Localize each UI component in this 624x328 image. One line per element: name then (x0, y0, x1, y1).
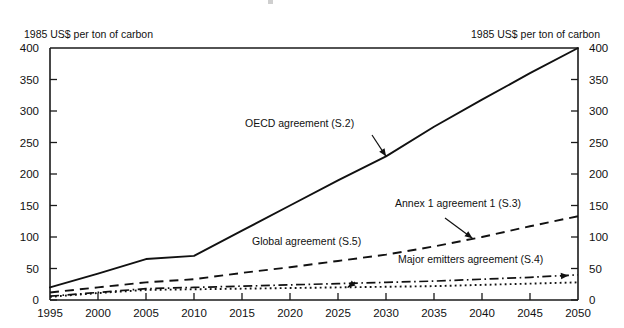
y-tick-label-left: 250 (20, 137, 39, 149)
y-tick-label-right: 0 (589, 294, 595, 306)
y-axis-ticks-right: 050100150200250300350400 (571, 42, 608, 306)
line-chart: 1985 US$ per ton of carbon 1985 US$ per … (0, 0, 624, 328)
scan-artifact (268, 0, 273, 4)
x-axis-ticks: 1995200020052010201520202025203020352040… (37, 293, 591, 319)
x-tick-label: 2015 (229, 307, 255, 319)
y-tick-label-left: 100 (20, 231, 39, 243)
x-tick-label: 2025 (325, 307, 351, 319)
y-tick-label-left: 0 (33, 294, 39, 306)
y-tick-label-left: 350 (20, 74, 39, 86)
x-tick-label: 2005 (133, 307, 159, 319)
x-tick-label: 2010 (181, 307, 207, 319)
x-tick-label: 2035 (421, 307, 447, 319)
x-tick-label: 2000 (85, 307, 111, 319)
y-tick-label-left: 300 (20, 105, 39, 117)
annotation-oecd-agreement-s-2-label: OECD agreement (S.2) (245, 117, 354, 129)
annotation-major-emitters-agreement-s-4-label: Major emitters agreement (S.4) (398, 253, 543, 265)
y-tick-label-left: 150 (20, 200, 39, 212)
annotation-annex-1-agreement-1-s-3-arrowhead (464, 231, 472, 238)
annotation-global-agreement-s-5-label: Global agreement (S.5) (252, 235, 361, 247)
x-tick-label: 2030 (373, 307, 399, 319)
y-tick-label-right: 400 (589, 42, 608, 54)
y-axis-label-left: 1985 US$ per ton of carbon (24, 28, 153, 40)
chart-container: 1985 US$ per ton of carbon 1985 US$ per … (0, 0, 624, 328)
x-tick-label: 1995 (37, 307, 63, 319)
y-axis-label-right: 1985 US$ per ton of carbon (471, 28, 600, 40)
y-tick-label-right: 200 (589, 168, 608, 180)
annotation-annex-1-agreement-1-s-3-label: Annex 1 agreement 1 (S.3) (395, 197, 521, 209)
y-axis-ticks-left: 050100150200250300350400 (20, 42, 57, 306)
y-tick-label-right: 150 (589, 200, 608, 212)
x-tick-label: 2045 (517, 307, 543, 319)
y-tick-label-right: 50 (589, 263, 602, 275)
y-tick-label-right: 100 (589, 231, 608, 243)
y-tick-label-left: 200 (20, 168, 39, 180)
x-tick-label: 2020 (277, 307, 303, 319)
series-line-oecd-agreement-s-2 (50, 48, 578, 287)
annotation-major-emitters-agreement-s-4-arrowhead (561, 273, 569, 279)
y-tick-label-right: 300 (589, 105, 608, 117)
y-tick-label-right: 250 (589, 137, 608, 149)
y-tick-label-left: 50 (26, 263, 39, 275)
y-tick-label-right: 350 (589, 74, 608, 86)
x-tick-label: 2050 (565, 307, 591, 319)
series-line-major-emitters-agreement-s-4 (50, 275, 578, 296)
y-tick-label-left: 400 (20, 42, 39, 54)
x-tick-label: 2040 (469, 307, 495, 319)
annotation-oecd-agreement-s-2-arrowhead (379, 148, 386, 156)
